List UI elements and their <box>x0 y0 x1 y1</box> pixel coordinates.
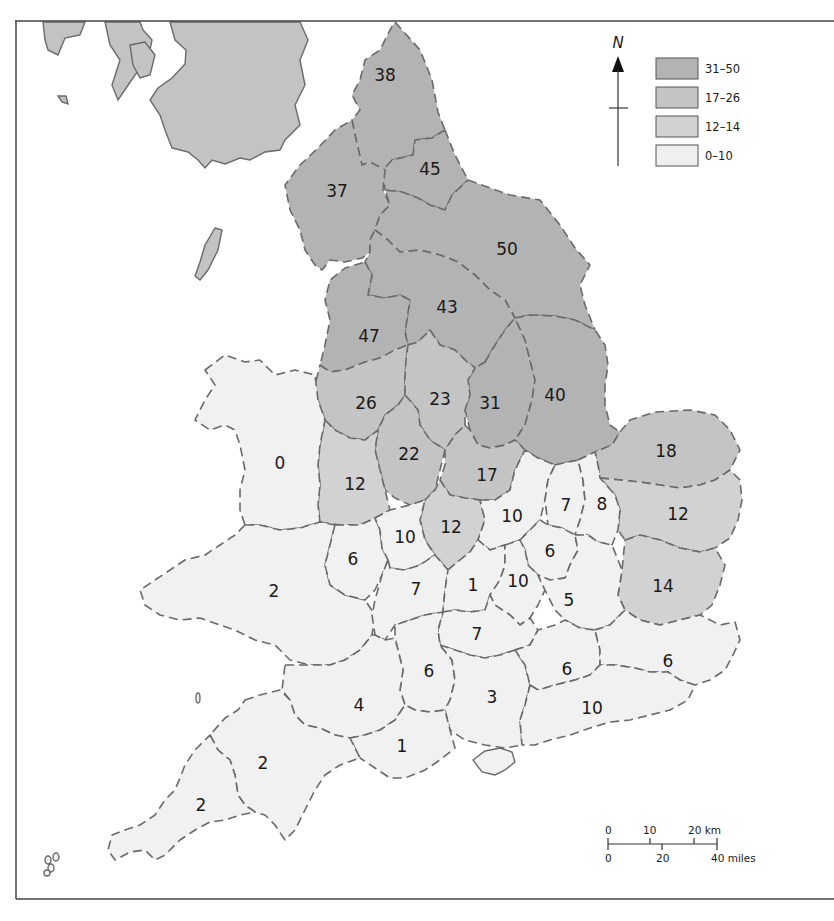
legend-label-0-10: 0–10 <box>705 149 733 163</box>
label-37: 37 <box>326 181 348 201</box>
label-7-berkshire: 7 <box>472 624 483 644</box>
legend-label-31-50: 31–50 <box>705 62 740 76</box>
label-38: 38 <box>374 65 396 85</box>
label-8: 8 <box>597 494 608 514</box>
label-50: 50 <box>496 239 518 259</box>
north-label: N <box>612 34 623 52</box>
label-12-midlands: 12 <box>440 517 462 537</box>
label-5: 5 <box>564 590 575 610</box>
label-6-welsh-marches: 6 <box>348 549 359 569</box>
label-6-bedfordshire: 6 <box>545 541 556 561</box>
label-26: 26 <box>355 393 377 413</box>
label-23: 23 <box>429 389 451 409</box>
label-17: 17 <box>476 465 498 485</box>
label-2-devon: 2 <box>258 753 269 773</box>
label-12-wales-border: 12 <box>344 474 366 494</box>
legend-swatch-17-26 <box>656 87 698 108</box>
scale-miles-40: 40 miles <box>711 852 756 864</box>
label-6-surrey: 6 <box>562 659 573 679</box>
label-1-oxfordshire: 1 <box>468 575 479 595</box>
scale-km-10: 10 <box>643 824 656 836</box>
label-22: 22 <box>398 444 420 464</box>
scale-miles-0: 0 <box>605 852 612 864</box>
label-18: 18 <box>655 441 677 461</box>
label-45: 45 <box>419 159 441 179</box>
label-2-wales: 2 <box>269 581 280 601</box>
label-3: 3 <box>487 687 498 707</box>
label-10-buckinghamshire: 10 <box>507 571 529 591</box>
legend-swatch-12-14 <box>656 116 698 137</box>
label-4: 4 <box>354 695 365 715</box>
label-0: 0 <box>275 453 286 473</box>
label-31: 31 <box>479 393 501 413</box>
choropleth-map: 38 45 37 50 43 47 26 23 31 40 18 0 12 22… <box>0 0 834 921</box>
label-7-cambridgeshire: 7 <box>561 495 572 515</box>
legend-swatch-31-50 <box>656 58 698 79</box>
legend-swatch-0-10 <box>656 145 698 166</box>
label-14: 14 <box>652 576 674 596</box>
label-47: 47 <box>358 326 380 346</box>
scale-km-0: 0 <box>605 824 612 836</box>
label-40: 40 <box>544 385 566 405</box>
lundy-island <box>196 693 200 703</box>
label-10-sussex: 10 <box>581 698 603 718</box>
label-6-kent: 6 <box>663 651 674 671</box>
label-10-east-midlands: 10 <box>501 506 523 526</box>
label-2-cornwall: 2 <box>196 795 207 815</box>
label-1-dorset: 1 <box>397 736 408 756</box>
scale-miles-20: 20 <box>656 852 669 864</box>
legend-label-17-26: 17–26 <box>705 91 740 105</box>
scale-km-20: 20 km <box>688 824 721 836</box>
label-7-gloucestershire: 7 <box>411 579 422 599</box>
label-12-east: 12 <box>667 504 689 524</box>
label-10-west-midlands: 10 <box>394 527 416 547</box>
label-6-wiltshire: 6 <box>424 661 435 681</box>
legend-label-12-14: 12–14 <box>705 120 740 134</box>
label-43: 43 <box>436 297 458 317</box>
